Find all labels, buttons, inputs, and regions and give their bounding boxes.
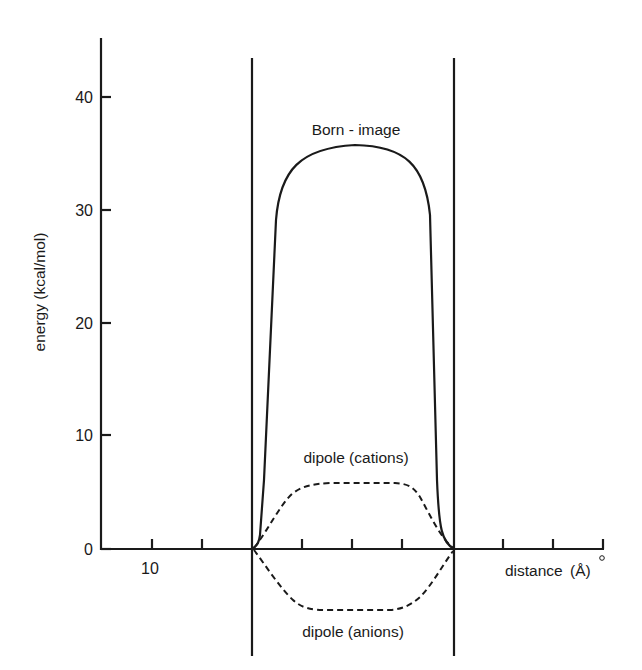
x-axis-title: distance [505,562,563,579]
y-tick-label-30: 30 [75,202,93,219]
y-tick-label-40: 40 [75,89,93,106]
dipole-cations-curve [254,483,453,548]
dipole-cations-label: dipole (cations) [303,449,408,466]
y-axis [101,38,111,550]
y-axis-title: energy (kcal/mol) [31,233,48,352]
y-tick-label-10: 10 [75,427,93,444]
angstrom-ring [600,556,605,561]
dipole-anions-label: dipole (anions) [302,623,404,640]
born-image-label: Born - image [312,121,401,138]
x-axis-unit: (Å) [570,562,591,579]
x-axis [101,539,604,549]
x-tick-label-10: 10 [141,560,159,577]
membrane-boundaries [252,58,454,656]
energy-profile-chart: 0 10 20 30 40 energy (kcal/mol) 10 dista… [0,0,642,670]
y-tick-label-20: 20 [75,315,93,332]
born-image-curve [252,145,454,549]
dipole-anions-curve [254,550,453,610]
y-tick-label-0: 0 [84,541,93,558]
